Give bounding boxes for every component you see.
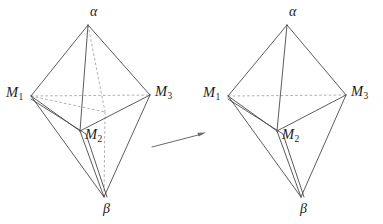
edge-m1-m3-dashed — [228, 95, 346, 96]
right-label-m2-letter: M — [282, 126, 294, 142]
arrow-shaft — [152, 134, 202, 147]
transformation-arrow — [152, 133, 206, 147]
left-label-beta: β — [103, 202, 110, 216]
arrow-head — [198, 133, 207, 137]
left-label-m3-letter: M — [155, 83, 167, 99]
edge-alpha-m1 — [31, 25, 88, 96]
edge-m3-beta — [104, 95, 150, 197]
edge-alpha-m3 — [88, 25, 150, 95]
edge-hidden-beta-dashed — [104, 112, 105, 197]
left-polyhedron — [31, 25, 150, 197]
right-label-m1: M1 — [203, 85, 220, 100]
left-label-alpha: α — [90, 5, 97, 19]
right-label-m1-subscript: 1 — [215, 92, 220, 102]
right-label-m3: M3 — [351, 84, 368, 99]
edge-alpha-m1 — [228, 25, 287, 96]
edge-alpha-m2 — [80, 25, 88, 131]
right-label-m3-letter: M — [351, 83, 363, 99]
left-label-m2-letter: M — [85, 126, 97, 142]
left-label-m1-letter: M — [6, 84, 18, 100]
diagram-canvas: α M1 M3 M2 β α M1 M3 M2 β — [0, 0, 383, 224]
right-dashed-edges — [228, 95, 346, 96]
edge-m1-m3-dashed — [31, 95, 150, 96]
right-label-m2: M2 — [282, 127, 299, 142]
right-polyhedron — [228, 25, 346, 197]
left-label-m2-subscript: 2 — [97, 134, 102, 144]
right-label-m1-letter: M — [203, 84, 215, 100]
right-label-beta: β — [300, 202, 307, 216]
polyhedron-vector-layer — [0, 0, 383, 224]
left-label-m1-subscript: 1 — [18, 92, 23, 102]
edge-alpha-hidden-dashed — [88, 25, 105, 112]
edge-alpha-m3 — [287, 25, 346, 95]
right-solid-edges — [228, 25, 346, 197]
edge-m1-lowerface — [31, 99, 86, 134]
edge-alpha-m2 — [277, 25, 287, 131]
edge-m1-beta — [31, 96, 104, 197]
edge-m3-beta — [301, 95, 346, 197]
left-label-m3: M3 — [155, 84, 172, 99]
left-label-m2: M2 — [85, 127, 102, 142]
left-dashed-edges — [31, 25, 150, 197]
left-solid-edges — [31, 25, 150, 197]
right-label-m3-subscript: 3 — [363, 91, 368, 101]
edge-m1-beta — [228, 96, 301, 197]
edge-m1-lowerface — [228, 99, 283, 134]
right-label-m2-subscript: 2 — [294, 134, 299, 144]
left-label-m3-subscript: 3 — [167, 91, 172, 101]
left-label-m1: M1 — [6, 85, 23, 100]
right-label-alpha: α — [289, 5, 296, 19]
